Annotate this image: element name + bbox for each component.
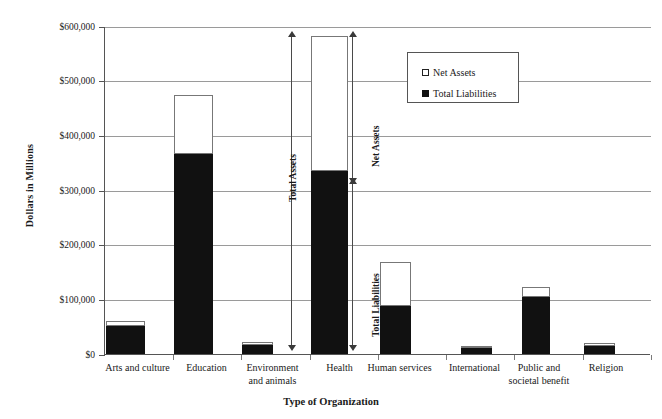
x-tick-label-religion: Religion (556, 362, 656, 375)
bar-segment-net-assets (242, 342, 273, 345)
x-tick-mark (583, 355, 584, 360)
bar-public-and-societal-benefit[interactable] (522, 287, 550, 354)
annotation-net-assets-arrow (352, 37, 353, 178)
bar-segment-total-liabilities (106, 326, 145, 354)
gridline-600000 (105, 27, 651, 28)
arrow-head-up-icon (349, 31, 357, 37)
bar-health[interactable] (311, 36, 348, 354)
bar-segment-net-assets (380, 262, 411, 306)
legend-label-net-assets: Net Assets (433, 67, 476, 78)
legend-swatch-filled-square-icon (422, 90, 429, 97)
x-tick-mark (173, 355, 174, 360)
bar-segment-total-liabilities (242, 345, 273, 354)
x-axis-title: Type of Organization (0, 396, 662, 407)
plot-area: Total Assets Net Assets Total Liabilitie… (104, 27, 650, 355)
x-tick-mark (651, 355, 652, 360)
y-tick-label-400000: $400,000 (0, 131, 95, 141)
y-tick-label-300000: $300,000 (0, 186, 95, 196)
x-tick-mark (241, 355, 242, 360)
y-tick-label-200000: $200,000 (0, 240, 95, 250)
x-tick-mark (378, 355, 379, 360)
legend: Net Assets Total Liabilities (407, 52, 519, 103)
bar-segment-total-liabilities (311, 171, 348, 354)
y-tick-label-500000: $500,000 (0, 76, 95, 86)
y-axis-title: Dollars in Millions (24, 121, 35, 251)
x-tick-mark (310, 355, 311, 360)
bar-segment-total-liabilities (522, 297, 550, 354)
bar-segment-net-assets (106, 321, 145, 326)
gridline-500000 (105, 81, 651, 82)
annotation-total-assets-label: Total Assets (288, 154, 298, 202)
arrow-head-down-icon (349, 345, 357, 351)
bar-human-services[interactable] (380, 262, 411, 354)
y-tick-label-0: $0 (0, 350, 95, 360)
bar-segment-total-liabilities (584, 346, 615, 354)
bar-education[interactable] (174, 95, 213, 354)
legend-item-total-liabilities[interactable]: Total Liabilities (422, 83, 518, 104)
bar-religion[interactable] (584, 343, 615, 354)
x-tick-mark (446, 355, 447, 360)
legend-label-total-liabilities: Total Liabilities (433, 88, 496, 99)
bar-international[interactable] (461, 347, 492, 354)
y-tick-mark (99, 355, 105, 356)
bar-arts-and-culture[interactable] (106, 321, 145, 354)
bar-segment-total-liabilities (174, 154, 213, 354)
bar-segment-net-assets (584, 343, 615, 346)
bar-segment-net-assets (461, 346, 492, 348)
bar-segment-total-liabilities (380, 306, 411, 354)
bar-environment-and-animals[interactable] (242, 342, 273, 354)
y-tick-label-600000: $600,000 (0, 22, 95, 32)
annotation-total-liabilities-label: Total Liabilities (371, 273, 381, 337)
bar-segment-net-assets (174, 95, 213, 154)
arrow-head-up-icon (349, 178, 357, 184)
bar-segment-total-liabilities (461, 348, 492, 354)
arrow-head-down-icon (288, 345, 296, 351)
chart-container: $600,000 $500,000 $400,000 $300,000 $200… (0, 0, 662, 419)
x-axis: Arts and culture Education Environment a… (0, 362, 662, 398)
y-tick-label-100000: $100,000 (0, 295, 95, 305)
y-axis: $600,000 $500,000 $400,000 $300,000 $200… (0, 0, 101, 419)
arrow-head-up-icon (288, 31, 296, 37)
legend-item-net-assets[interactable]: Net Assets (422, 62, 518, 83)
legend-swatch-open-square-icon (422, 69, 429, 76)
bar-segment-net-assets (522, 287, 550, 297)
annotation-total-liabilities-arrow (352, 184, 353, 345)
x-tick-mark (514, 355, 515, 360)
bar-segment-net-assets (311, 36, 348, 171)
annotation-net-assets-label: Net Assets (371, 126, 381, 167)
